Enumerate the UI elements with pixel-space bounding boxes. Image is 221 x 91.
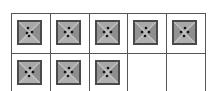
four-dot-tile-icon <box>17 60 42 85</box>
grid-cell <box>167 14 206 54</box>
grid-cell <box>128 54 167 91</box>
grid-cell <box>128 14 167 54</box>
grid-cell <box>51 54 90 91</box>
four-dot-tile-icon <box>172 20 197 45</box>
four-dot-tile-icon <box>95 20 120 45</box>
grid-cell <box>51 14 90 54</box>
four-dot-tile-icon <box>56 60 81 85</box>
four-dot-tile-icon <box>17 20 42 45</box>
four-dot-tile-icon <box>95 60 120 85</box>
four-dot-tile-icon <box>56 20 81 45</box>
grid-cell <box>12 14 51 54</box>
grid-cell <box>90 54 129 91</box>
four-dot-tile-icon <box>133 20 158 45</box>
ten-frame-grid <box>11 13 206 91</box>
grid-cell <box>167 54 206 91</box>
grid-cell <box>90 14 129 54</box>
grid-cell <box>12 54 51 91</box>
